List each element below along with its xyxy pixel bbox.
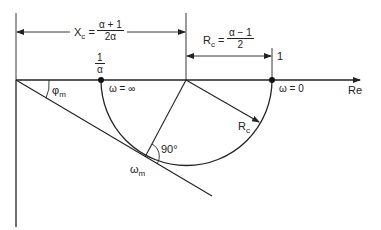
radius-subscript: c (246, 126, 250, 135)
real-axis-label: Re (348, 85, 362, 96)
radius-rc-arrow (186, 80, 259, 122)
phi-m-label: φm (52, 85, 66, 99)
omega-m-subscript: m (139, 169, 146, 178)
rc-denominator: 2 (236, 39, 246, 50)
xc-equals: = (88, 26, 94, 38)
point-inv-alpha (98, 77, 104, 83)
xc-label: Xc = (74, 27, 95, 41)
radius-symbol: R (238, 120, 246, 132)
xc-numerator: α + 1 (97, 19, 124, 31)
inv-alpha-label: 1 α (95, 52, 105, 75)
rc-numerator: α − 1 (227, 27, 254, 39)
radius-rc-label: Rc (238, 121, 250, 135)
point-one (269, 77, 275, 83)
rc-fraction: α − 1 2 (227, 27, 254, 50)
rc-equals: = (218, 34, 224, 46)
omega-m-label: ωm (130, 164, 145, 178)
omega-zero-label: ω = 0 (279, 84, 304, 94)
phi-subscript: m (59, 90, 66, 99)
xc-subscript: c (81, 32, 85, 41)
xc-fraction: α + 1 2α (97, 19, 124, 42)
rc-subscript: c (211, 40, 215, 49)
phi-arc (46, 80, 49, 98)
right-angle-label: 90° (161, 144, 178, 155)
tangent-line (16, 80, 212, 196)
omega-m-symbol: ω (130, 163, 139, 175)
rc-symbol: R (203, 34, 211, 46)
rc-label: Rc = (203, 35, 224, 49)
xc-denominator: 2α (103, 31, 118, 42)
omega-infinity-label: ω = ∞ (109, 84, 135, 94)
one-label: 1 (277, 51, 283, 62)
inv-alpha-den: α (95, 64, 105, 75)
inv-alpha-num: 1 (95, 52, 105, 64)
nyquist-diagram (0, 0, 381, 230)
